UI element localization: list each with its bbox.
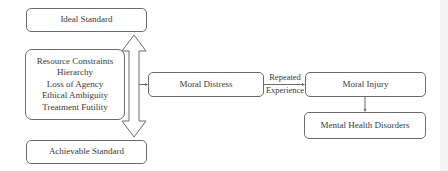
edge-label-repeated: Repeated [265, 72, 305, 82]
factor-hierarchy: Hierarchy [57, 67, 93, 79]
ideal-standard-label: Ideal Standard [60, 14, 112, 26]
factor-loss-of-agency: Loss of Agency [47, 79, 104, 91]
edge-label-experience: Experience [264, 85, 306, 95]
achievable-standard-node: Achievable Standard [26, 140, 147, 164]
factor-treatment-futility: Treatment Futility [42, 102, 107, 114]
gap-to-distress-arrow [139, 83, 148, 86]
achievable-standard-label: Achievable Standard [49, 146, 124, 158]
ideal-standard-node: Ideal Standard [26, 8, 147, 32]
mental-health-disorders-node: Mental Health Disorders [304, 112, 426, 139]
factor-ethical-ambiguity: Ethical Ambiguity [42, 90, 108, 102]
factors-list: Resource Constraints Hierarchy Loss of A… [37, 56, 114, 114]
moral-distress-node: Moral Distress [148, 72, 264, 97]
contributing-factors-node: Resource Constraints Hierarchy Loss of A… [25, 49, 125, 120]
injury-to-mental-arrow [364, 97, 367, 112]
moral-injury-node: Moral Injury [305, 72, 426, 97]
moral-distress-label: Moral Distress [179, 79, 232, 91]
mental-health-disorders-label: Mental Health Disorders [321, 120, 410, 132]
factor-resource-constraints: Resource Constraints [37, 56, 114, 68]
moral-injury-label: Moral Injury [342, 79, 388, 91]
gap-double-arrow [122, 35, 146, 137]
